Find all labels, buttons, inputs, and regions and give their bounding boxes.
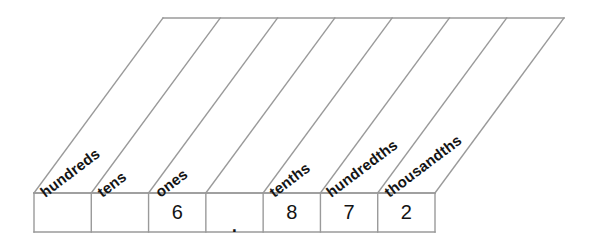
digit-cell-decimal-point[interactable]: . (206, 193, 263, 236)
header-column-divider-7 (435, 18, 564, 193)
header-column-divider-6 (378, 18, 507, 193)
digit-cell-tenths[interactable]: 8 (263, 193, 320, 232)
digit-cell-ones[interactable]: 6 (149, 193, 206, 232)
digit-cell-hundredths[interactable]: 7 (320, 193, 377, 232)
digit-cell-tens[interactable] (91, 193, 148, 232)
header-column-divider-0 (34, 18, 163, 193)
header-column-divider-3 (206, 18, 335, 193)
digit-cell-thousandths[interactable]: 2 (378, 193, 435, 232)
header-column-divider-1 (91, 18, 220, 193)
digit-cell-hundreds[interactable] (34, 193, 91, 232)
header-column-divider-2 (149, 18, 278, 193)
place-value-chart: hundredstensonestenthshundredthsthousand… (0, 0, 594, 251)
